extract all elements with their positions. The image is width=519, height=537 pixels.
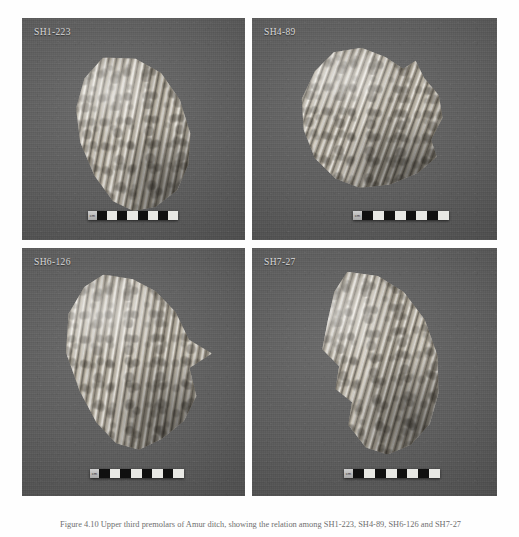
specimen-label: SH4-89 <box>264 27 296 37</box>
photo-panel-sh6-126[interactable]: cm SH6-126 <box>22 248 245 496</box>
figure-caption: Figure 4.10 Upper third premolars of Amu… <box>60 519 470 537</box>
scale-bar: cm <box>353 211 449 220</box>
scale-bar-segment <box>148 211 158 220</box>
scale-bar-segment <box>373 211 384 220</box>
scale-bar-segment <box>158 211 168 220</box>
scale-bar-segment <box>120 469 131 478</box>
scale-bar: cm <box>344 469 440 478</box>
scale-bar-segment <box>142 469 153 478</box>
scale-bar-segment <box>438 211 449 220</box>
photo-panel-sh4-89[interactable]: cm SH4-89 <box>252 18 497 240</box>
scale-bar: cm <box>88 211 178 220</box>
scale-bar-segment <box>163 469 174 478</box>
scale-bar-unit-label: cm <box>344 469 353 478</box>
scale-bar-segment <box>353 469 364 478</box>
scale-bar-segment <box>127 211 137 220</box>
scale-bar-segment <box>110 469 121 478</box>
specimen-label: SH6-126 <box>34 257 71 267</box>
scale-bar-segment <box>375 469 386 478</box>
scale-bar-segment <box>397 469 408 478</box>
scale-bar-segment <box>107 211 117 220</box>
scale-bar-segment <box>406 211 417 220</box>
scale-bar-unit-label: cm <box>353 211 362 220</box>
photo-panel-sh7-27[interactable]: cm SH7-27 <box>252 248 497 496</box>
scale-bar-segment <box>97 211 107 220</box>
specimen-label: SH1-223 <box>34 27 71 37</box>
figure-plate: cm SH1-223 <box>22 18 497 496</box>
scale-bar-segment <box>168 211 178 220</box>
scale-bar-segment <box>117 211 127 220</box>
scale-bar-segment <box>427 211 438 220</box>
scale-bar-segment <box>173 469 184 478</box>
scale-bar-segment <box>384 211 395 220</box>
scale-bar-unit-label: cm <box>90 469 99 478</box>
scale-bar-segment <box>429 469 440 478</box>
photo-panel-sh1-223[interactable]: cm SH1-223 <box>22 18 245 240</box>
scale-bar-segment <box>364 469 375 478</box>
specimen-label: SH7-27 <box>264 257 296 267</box>
scale-bar: cm <box>90 469 184 478</box>
figure-page: cm SH1-223 <box>0 0 519 537</box>
scale-bar-segment <box>131 469 142 478</box>
scale-bar-segment <box>362 211 373 220</box>
scale-bar-unit-label: cm <box>88 211 97 220</box>
scale-bar-segment <box>416 211 427 220</box>
scale-bar-segment <box>395 211 406 220</box>
scale-bar-segment <box>152 469 163 478</box>
scale-bar-segment <box>386 469 397 478</box>
scale-bar-segment <box>138 211 148 220</box>
scale-bar-segment <box>418 469 429 478</box>
scale-bar-segment <box>407 469 418 478</box>
scale-bar-segment <box>99 469 110 478</box>
